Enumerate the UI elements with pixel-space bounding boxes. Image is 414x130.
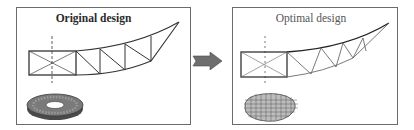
original-design-panel: Original design — [16, 7, 191, 125]
optimal-design-panel: Optimal design — [232, 7, 398, 125]
top-chord — [76, 22, 179, 51]
original-truss-drawing — [17, 8, 192, 126]
right-arrow-icon — [192, 52, 224, 70]
optimal-truss-drawing — [233, 8, 399, 126]
solid-disk-model — [27, 94, 83, 120]
lattice-mesh-model — [244, 93, 298, 121]
